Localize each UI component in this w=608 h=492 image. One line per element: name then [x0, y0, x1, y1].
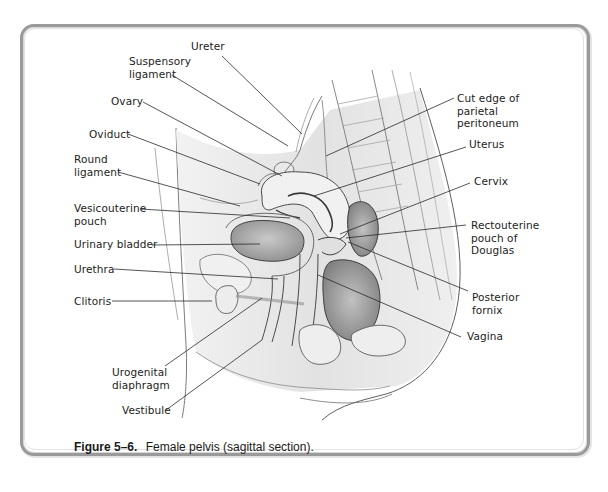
label-uterus: Uterus — [469, 138, 504, 151]
label-ureter: Ureter — [191, 40, 225, 53]
leader-line-ureter — [222, 56, 302, 134]
label-ovary: Ovary — [111, 95, 143, 108]
label-urinary-bladder: Urinary bladder — [74, 238, 158, 251]
body-silhouette — [155, 88, 460, 420]
label-posterior-fornix: Posterior fornix — [472, 291, 519, 316]
label-urethra: Urethra — [74, 263, 114, 276]
label-rectouterine-pouch: Rectouterine pouch of Douglas — [471, 219, 539, 257]
label-vagina: Vagina — [467, 330, 503, 343]
label-oviduct: Oviduct — [89, 128, 130, 141]
label-urogenital-diaphragm: Urogenital diaphragm — [112, 366, 170, 391]
label-cervix: Cervix — [474, 175, 508, 188]
label-vestibule: Vestibule — [122, 404, 171, 417]
label-round-ligament: Round ligament — [74, 153, 121, 178]
label-vesicouterine-pouch: Vesicouterine pouch — [74, 202, 146, 227]
figure-caption-text: Female pelvis (sagittal section). — [146, 440, 314, 454]
label-cut-edge-parietal-peritoneum: Cut edge of parietal peritoneum — [457, 92, 519, 130]
label-suspensory-ligament: Suspensory ligament — [129, 55, 191, 80]
label-clitoris: Clitoris — [74, 295, 111, 308]
leader-line-suspensory-ligament — [172, 75, 288, 146]
figure-caption: Figure 5–6. Female pelvis (sagittal sect… — [74, 440, 314, 454]
figure-number: Figure 5–6. — [74, 440, 137, 454]
